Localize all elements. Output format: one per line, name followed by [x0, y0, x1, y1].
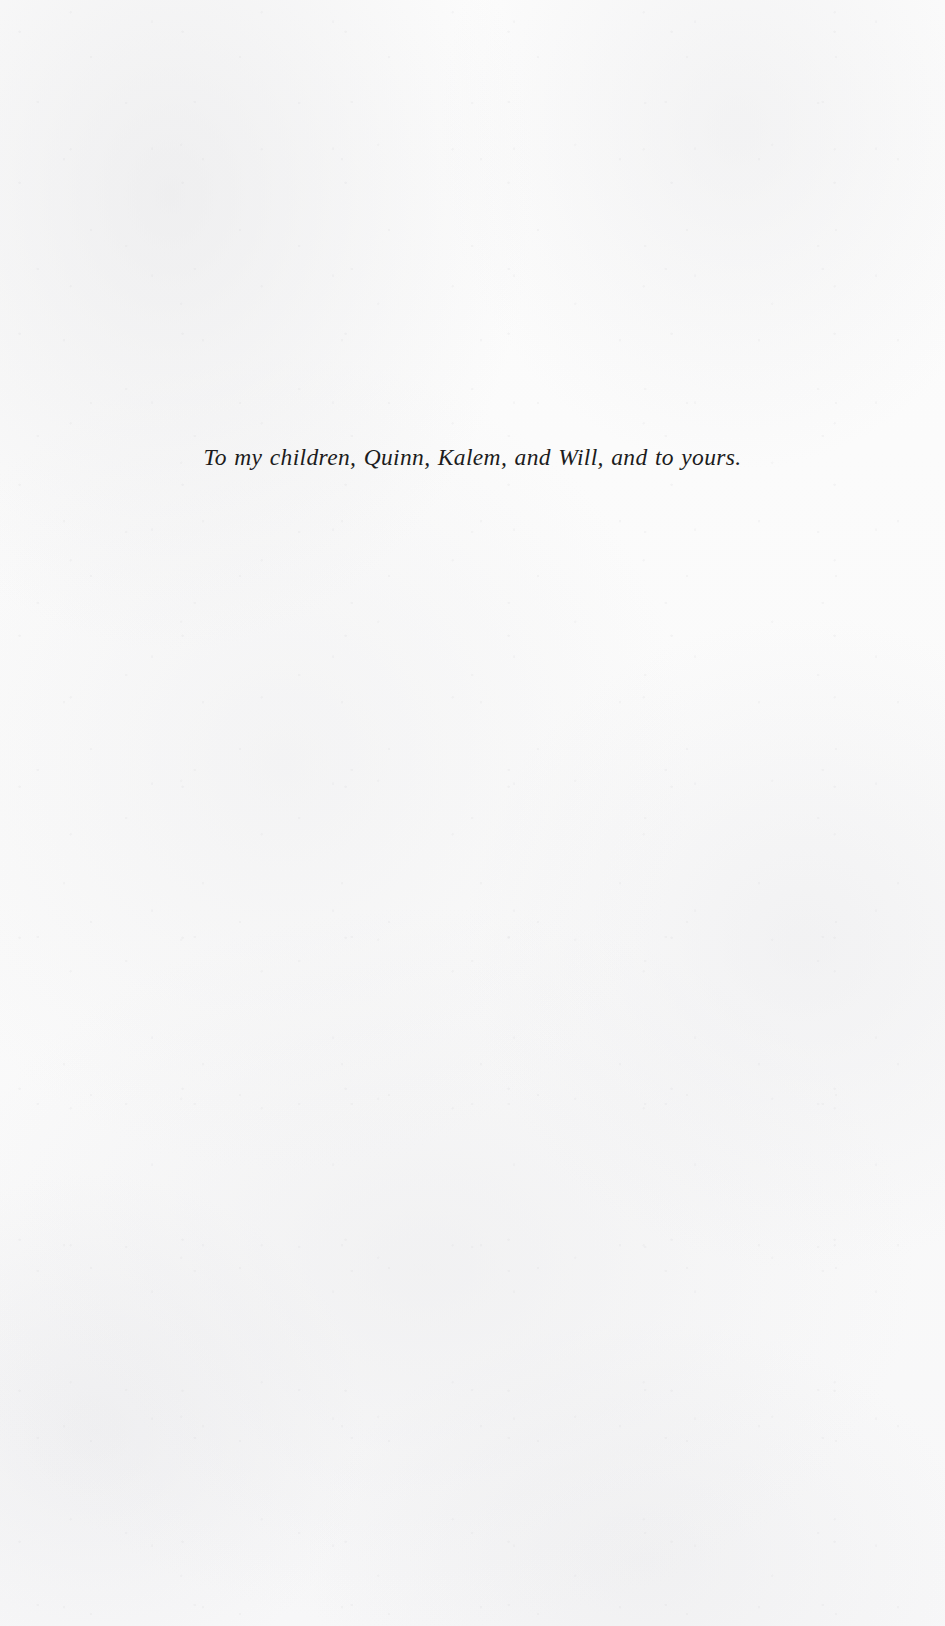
book-page: To my children, Quinn, Kalem, and Will, …: [0, 0, 945, 1626]
dedication-text: To my children, Quinn, Kalem, and Will, …: [0, 442, 945, 472]
paper-grain-texture: [0, 0, 945, 1626]
